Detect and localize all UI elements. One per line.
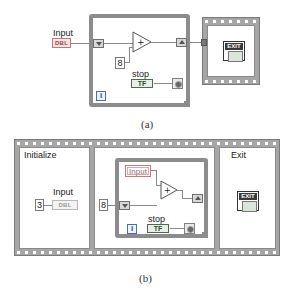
- tunnel-down-arrow-icon: [122, 204, 128, 208]
- tunnel-down-arrow-icon: [96, 42, 102, 46]
- frame-initialize: [19, 147, 90, 249]
- film-strip-top: [203, 18, 259, 24]
- film-strip-top: [15, 140, 279, 146]
- add-node-b: +: [160, 180, 178, 200]
- loop-condition-corner: [202, 232, 208, 238]
- wire-add-to-right-tunnel: [151, 42, 178, 43]
- dbl-badge: DBL: [58, 202, 71, 208]
- wire-tunnel-to-add-b: [130, 205, 157, 206]
- add-node: +: [132, 31, 152, 53]
- exit-play-box: [242, 201, 257, 212]
- film-strip-bottom: [203, 78, 259, 84]
- exit-icon: EXIT: [223, 41, 245, 61]
- iteration-terminal: i: [96, 91, 106, 101]
- figure-b: Initialize Input 3 DBL 8 Input + stop TF…: [0, 135, 297, 296]
- exit-icon-b: EXIT: [237, 191, 259, 211]
- left-shift-tunnel: [93, 39, 104, 48]
- stop-tf-terminal-b[interactable]: TF: [147, 224, 169, 233]
- add-triangle-icon: +: [132, 31, 152, 53]
- stop-condition-icon: [172, 78, 183, 89]
- right-shift-tunnel-b: [192, 194, 203, 203]
- stop-label-b: stop: [148, 214, 165, 224]
- constant-8-b[interactable]: 8: [99, 199, 108, 211]
- stop-label: stop: [132, 69, 149, 79]
- input-local-variable[interactable]: Input: [125, 165, 151, 177]
- left-shift-tunnel-b: [119, 201, 130, 210]
- local-variable-text: Input: [127, 167, 149, 175]
- frame-initialize-title: Initialize: [24, 150, 57, 160]
- input-dbl-control[interactable]: DBL: [52, 38, 71, 48]
- wire-tunnel-to-add: [104, 43, 133, 44]
- stop-condition-icon: [184, 223, 195, 234]
- right-shift-tunnel: [176, 38, 187, 47]
- input-indicator-label: Input: [53, 187, 73, 197]
- exit-text: EXIT: [239, 193, 257, 200]
- wire-stop: [154, 83, 173, 84]
- figure-a: Input DBL + 8 stop TF i EXIT (a): [0, 0, 297, 135]
- wire-stop-b: [170, 228, 184, 229]
- svg-text:+: +: [164, 186, 171, 195]
- loop-condition-corner: [184, 101, 190, 107]
- wire-const-v: [129, 47, 130, 63]
- film-strip-bottom: [15, 249, 279, 255]
- exit-play-box: [228, 51, 243, 62]
- dbl-badge: DBL: [55, 40, 68, 46]
- input-dbl-indicator[interactable]: DBL: [52, 200, 78, 210]
- wire-const-h2: [129, 47, 133, 48]
- wire-add-out-h2: [182, 198, 192, 199]
- frame-exit-title: Exit: [231, 150, 246, 160]
- wire-loop-to-sequence: [188, 42, 202, 43]
- constant-3[interactable]: 3: [35, 199, 44, 211]
- wire-local-v: [156, 170, 157, 185]
- caption-b: (b): [139, 272, 152, 284]
- constant-8[interactable]: 8: [115, 57, 125, 69]
- iteration-terminal-b: i: [127, 224, 137, 234]
- caption-a: (a): [141, 118, 153, 130]
- svg-text:+: +: [137, 37, 145, 47]
- add-triangle-icon: +: [160, 180, 178, 200]
- input-control-label: Input: [53, 28, 73, 38]
- sequence-input-tunnel: [201, 39, 207, 46]
- tunnel-up-arrow-icon: [179, 40, 185, 44]
- tunnel-up-arrow-icon: [195, 196, 201, 200]
- wire-3-to-input: [44, 205, 52, 206]
- stop-tf-terminal[interactable]: TF: [131, 79, 153, 88]
- exit-text: EXIT: [225, 43, 243, 50]
